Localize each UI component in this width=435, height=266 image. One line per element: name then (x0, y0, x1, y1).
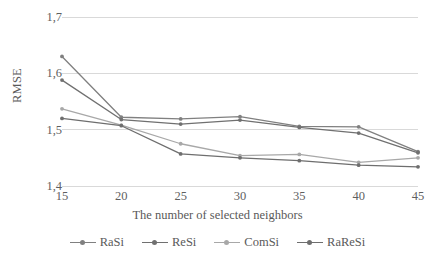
x-axis-tick-label: 35 (279, 190, 319, 203)
legend-line-marker-icon (142, 237, 168, 247)
legend-line-marker-icon (214, 237, 240, 247)
x-axis-tick-label: 20 (101, 190, 141, 203)
x-axis-tick-label: 40 (339, 190, 379, 203)
rmse-line-chart: RMSE 1,41,51,61,7 15202530354045 The num… (0, 0, 435, 266)
legend-label: ComSi (244, 236, 279, 249)
x-axis-tick-label: 15 (42, 190, 82, 203)
legend-line-marker-icon (70, 237, 96, 247)
legend-label: RaReSi (327, 236, 365, 249)
legend-line-marker-icon (297, 237, 323, 247)
x-axis-tick-label: 30 (220, 190, 260, 203)
x-axis-tick-label: 45 (398, 190, 435, 203)
x-axis-title: The number of selected neighbors (0, 208, 435, 223)
legend-item-raresi[interactable]: RaReSi (297, 236, 365, 249)
legend-item-rasi[interactable]: RaSi (70, 236, 124, 249)
x-axis-tick-labels: 15202530354045 (0, 0, 435, 266)
chart-legend: RaSiReSiComSiRaReSi (0, 236, 435, 249)
legend-label: ReSi (172, 236, 196, 249)
legend-item-resi[interactable]: ReSi (142, 236, 196, 249)
x-axis-tick-label: 25 (161, 190, 201, 203)
legend-label: RaSi (100, 236, 124, 249)
legend-item-comsi[interactable]: ComSi (214, 236, 279, 249)
